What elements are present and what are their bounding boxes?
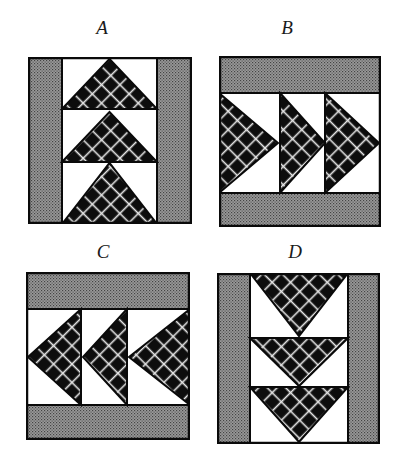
gray-bar-top	[26, 272, 190, 309]
gray-bar-bottom	[219, 193, 381, 227]
gray-side-bar-right	[348, 273, 380, 444]
gray-side-bar-left	[217, 273, 250, 444]
gray-side-bar-left	[28, 57, 62, 224]
option-label-d: D	[288, 242, 302, 261]
goose-triangles	[250, 273, 348, 444]
goose-triangles	[26, 309, 190, 405]
option-label-b: B	[281, 18, 293, 37]
quilt-block-c[interactable]	[26, 272, 190, 440]
gray-bar-top	[219, 56, 381, 93]
quilt-block-d[interactable]	[217, 273, 380, 444]
gray-side-bar-right	[157, 57, 192, 224]
quilt-block-a[interactable]	[28, 57, 192, 224]
goose-triangles	[62, 57, 157, 224]
gray-bar-bottom	[26, 405, 190, 440]
goose-triangles	[219, 93, 381, 193]
quilt-block-b[interactable]	[219, 56, 381, 227]
option-label-a: A	[96, 18, 108, 37]
option-label-c: C	[97, 242, 110, 261]
